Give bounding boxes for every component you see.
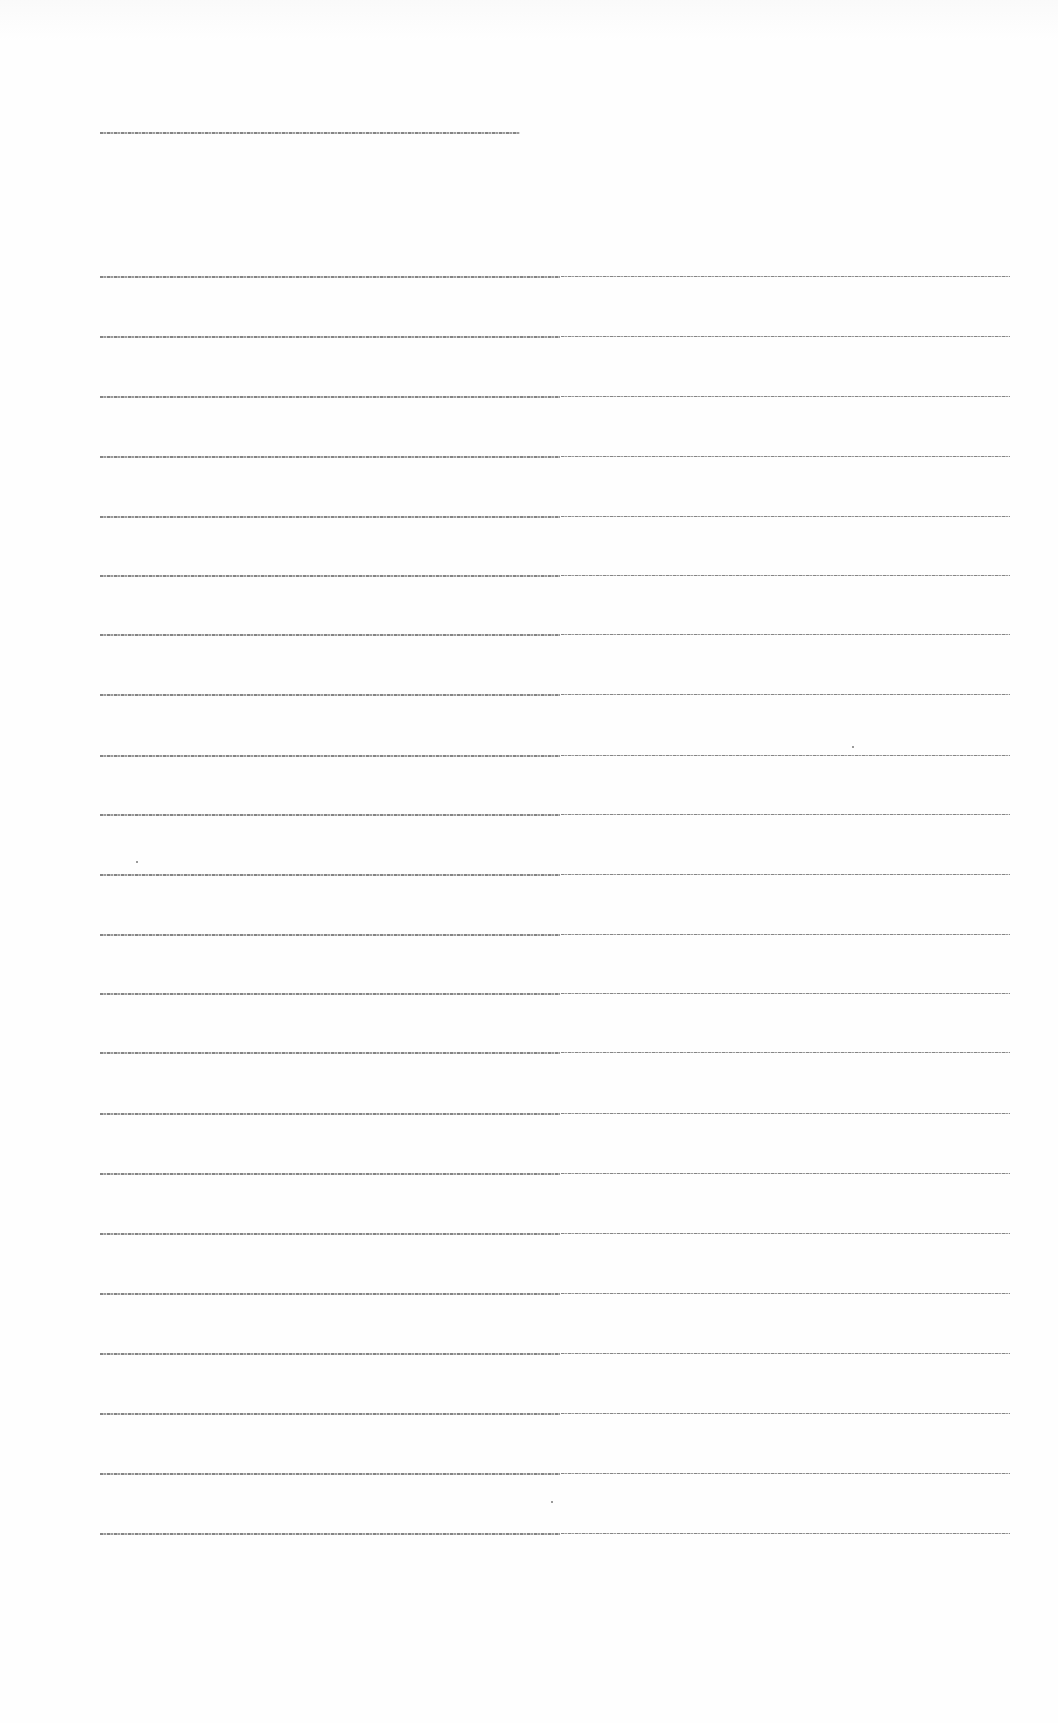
body-text-line: [100, 1113, 1010, 1115]
line-left-half: [100, 1052, 560, 1054]
body-text-line: [100, 694, 1010, 696]
line-right-half: [561, 1233, 1010, 1234]
scan-bleed-through: [0, 0, 1058, 40]
line-left-half: [100, 1413, 560, 1415]
line-right-half: [561, 934, 1010, 935]
line-right-half: [561, 1173, 1010, 1174]
line-left-half: [100, 634, 560, 636]
body-text-line: [100, 755, 1010, 757]
line-right-half: [561, 276, 1010, 277]
line-left-half: [100, 1113, 560, 1115]
body-text-line: [100, 1233, 1010, 1235]
line-right-half: [561, 993, 1010, 994]
line-left-half: [100, 755, 560, 757]
body-text-line: [100, 1173, 1010, 1175]
body-text-line: [100, 1473, 1010, 1475]
line-right-half: [561, 694, 1010, 695]
line-right-half: [561, 634, 1010, 635]
line-left-half: [100, 575, 560, 577]
body-text-line: [100, 1353, 1010, 1355]
line-right-half: [561, 1473, 1010, 1474]
line-right-half: [561, 1353, 1010, 1354]
line-right-half: [561, 755, 1010, 756]
header-text: [100, 132, 520, 134]
body-text-line: [100, 456, 1010, 458]
line-right-half: [561, 336, 1010, 337]
body-text-line: [100, 336, 1010, 338]
body-text-line: [100, 993, 1010, 995]
body-text-line: [100, 634, 1010, 636]
body-text-line: [100, 1413, 1010, 1415]
line-right-half: [561, 874, 1010, 875]
body-text-line: [100, 1293, 1010, 1295]
body-text-line: [100, 396, 1010, 398]
body-text-line: [100, 1533, 1010, 1535]
header-text-line: [100, 132, 520, 134]
line-right-half: [561, 396, 1010, 397]
line-right-half: [561, 1052, 1010, 1053]
line-left-half: [100, 276, 560, 278]
document-page: [0, 0, 1058, 1723]
body-text-line: [100, 1052, 1010, 1054]
line-left-half: [100, 814, 560, 816]
line-right-half: [561, 1113, 1010, 1114]
line-right-half: [561, 456, 1010, 457]
line-left-half: [100, 694, 560, 696]
ink-speck: [551, 1501, 553, 1503]
body-text-line: [100, 575, 1010, 577]
line-left-half: [100, 993, 560, 995]
line-right-half: [561, 1533, 1010, 1534]
ink-speck: [136, 861, 138, 863]
line-left-half: [100, 1473, 560, 1475]
body-text-line: [100, 814, 1010, 816]
line-left-half: [100, 1533, 560, 1535]
body-text-line: [100, 516, 1010, 518]
line-right-half: [561, 575, 1010, 576]
line-right-half: [561, 1293, 1010, 1294]
line-left-half: [100, 456, 560, 458]
line-left-half: [100, 516, 560, 518]
line-right-half: [561, 814, 1010, 815]
line-left-half: [100, 1173, 560, 1175]
body-text-line: [100, 276, 1010, 278]
ink-speck: [852, 746, 854, 748]
line-left-half: [100, 1233, 560, 1235]
line-right-half: [561, 1413, 1010, 1414]
body-text-line: [100, 874, 1010, 876]
line-left-half: [100, 396, 560, 398]
line-left-half: [100, 934, 560, 936]
line-right-half: [561, 516, 1010, 517]
line-left-half: [100, 1353, 560, 1355]
body-text-line: [100, 934, 1010, 936]
line-left-half: [100, 336, 560, 338]
line-left-half: [100, 874, 560, 876]
line-left-half: [100, 1293, 560, 1295]
